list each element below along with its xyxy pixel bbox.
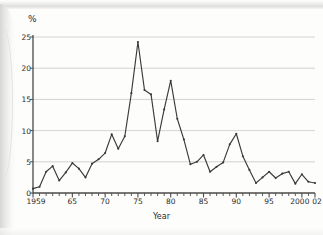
x-tick-label: 1959 [26, 197, 45, 206]
x-tick-label: 2000 [290, 197, 309, 206]
x-tick-label: 65 [68, 197, 78, 206]
x-tick-label: 95 [264, 197, 274, 206]
axis-lines [33, 35, 315, 193]
x-tick-label: 70 [100, 197, 110, 206]
x-tick-label: 80 [166, 197, 176, 206]
data-line-series [33, 42, 315, 189]
data-point-markers [32, 41, 316, 190]
scanned-page: % Year 0510152025 1959657075808590952000… [0, 0, 323, 235]
x-tick-label: 75 [133, 197, 143, 206]
x-tick-label: 85 [199, 197, 209, 206]
x-tick-label: 02 [312, 197, 322, 206]
line-chart [0, 0, 323, 235]
x-tick-label: 90 [232, 197, 242, 206]
